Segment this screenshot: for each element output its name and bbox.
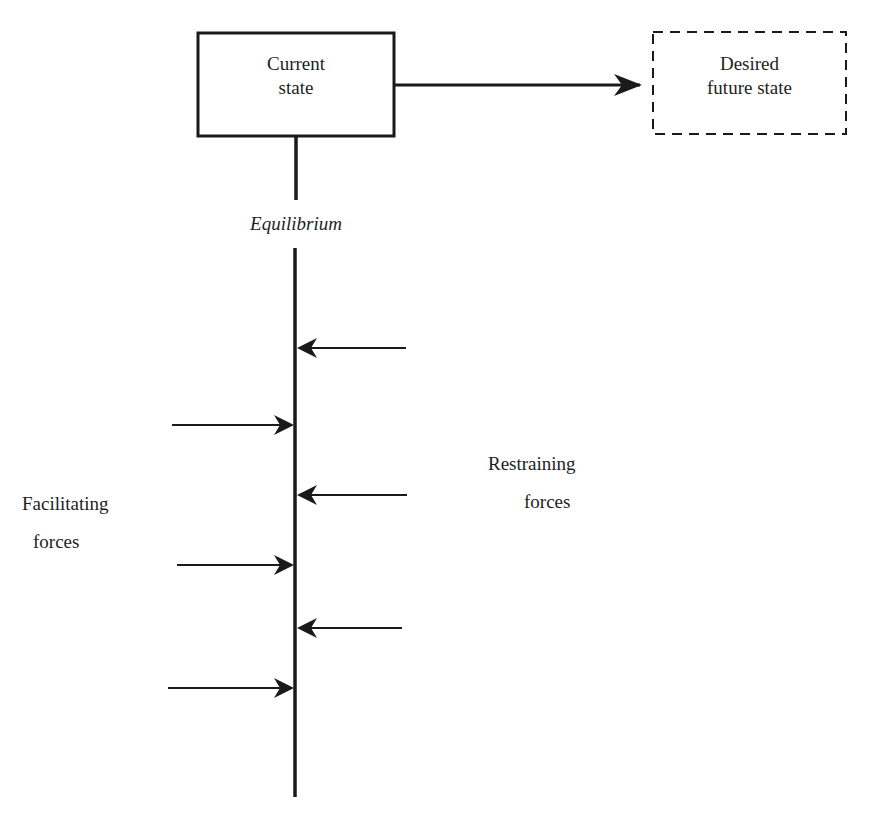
restraining-forces-label: Restraining forces (488, 452, 576, 514)
restraining-line2: forces (488, 490, 576, 514)
equilibrium-label: Equilibrium (196, 212, 396, 236)
facilitating-line2: forces (22, 530, 109, 554)
restraining-line1: Restraining (488, 452, 576, 476)
current-state-line1: Current (198, 52, 394, 76)
desired-state-line1: Desired (653, 52, 846, 76)
facilitating-forces-label: Facilitating forces (22, 492, 109, 554)
current-state-label: Current state (198, 52, 394, 100)
desired-state-label: Desired future state (653, 52, 846, 100)
diagram-canvas (0, 0, 876, 822)
current-state-line2: state (198, 76, 394, 100)
facilitating-line1: Facilitating (22, 492, 109, 516)
desired-state-line2: future state (653, 76, 846, 100)
